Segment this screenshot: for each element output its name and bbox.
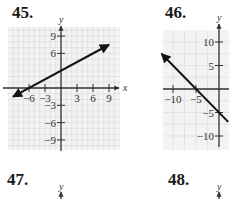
x-tick-label: 3 (74, 92, 80, 104)
graph-46: y−10−5105−5−10 (162, 12, 230, 150)
y-axis-label: y (58, 181, 64, 192)
y-tick-label: 6 (51, 47, 57, 59)
y-tick-label: 9 (51, 30, 57, 42)
y-axis-label: y (216, 181, 222, 192)
x-axis-label: x (122, 82, 128, 93)
y-tick-label: −6 (44, 117, 56, 129)
graph-47: y (58, 181, 64, 199)
y-tick-label: −9 (44, 134, 56, 146)
y-axis-label: y (58, 14, 64, 25)
x-tick-label: −6 (23, 92, 35, 104)
graphs-canvas: yx−6−336996−3−6−9 y−10−5105−5−10 y y (0, 0, 229, 199)
y-tick-label: −3 (44, 99, 56, 111)
y-tick-label: −10 (197, 130, 215, 142)
graph-48: y (216, 181, 222, 199)
y-tick-label: 5 (209, 60, 215, 72)
y-tick-label: −5 (202, 107, 214, 119)
y-axis-label: y (216, 12, 222, 23)
x-tick-label: 9 (106, 92, 112, 104)
x-tick-label: −10 (164, 93, 182, 105)
graph-45: yx−6−336996−3−6−9 (3, 14, 128, 151)
x-tick-label: 6 (90, 92, 96, 104)
y-tick-label: 10 (203, 36, 215, 48)
